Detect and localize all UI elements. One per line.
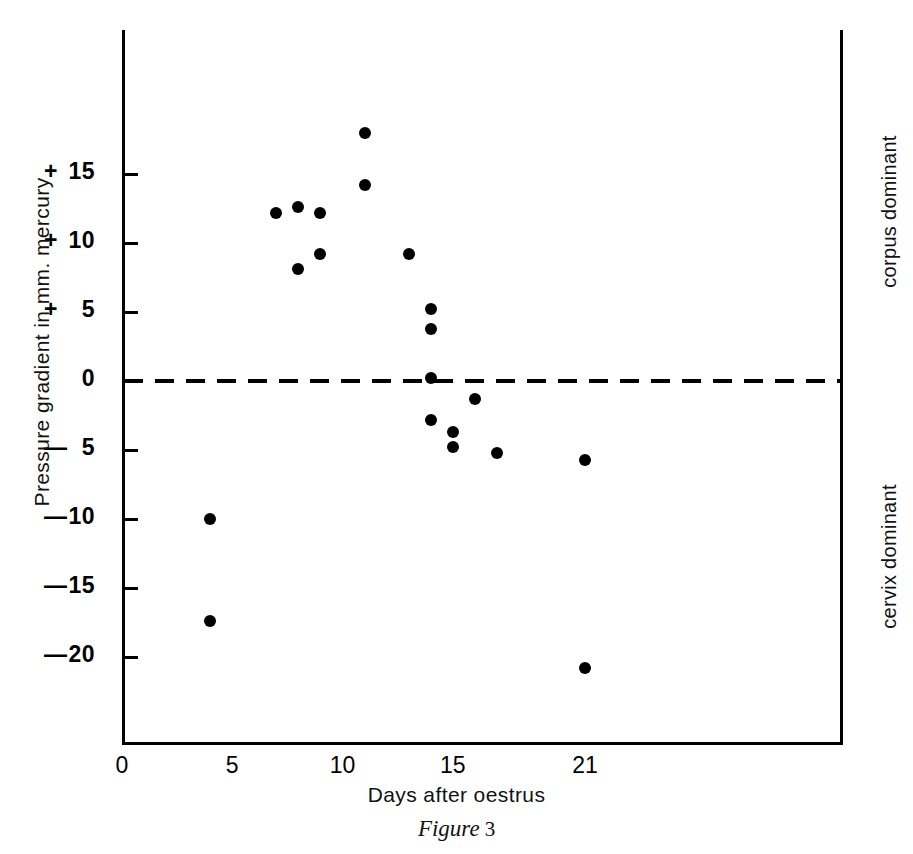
data-point [425,414,437,426]
data-point [403,248,415,260]
annotation-cervix-dominant: cervix dominant [878,457,901,657]
y-tick-mark [125,656,138,659]
data-point [425,323,437,335]
data-point [491,447,503,459]
data-point [469,393,481,405]
y-tick-mark [125,518,138,521]
x-tick-label: 15 [440,752,466,779]
data-point [359,179,371,191]
y-tick-mark [125,173,138,176]
data-point [447,426,459,438]
y-tick-mark [125,380,138,383]
figure-caption-label: Figure [418,816,480,841]
x-tick-label: 10 [330,752,356,779]
data-point [447,441,459,453]
data-point [270,207,282,219]
y-tick-mark [125,449,138,452]
x-axis-title: Days after oestrus [0,783,913,807]
annotation-corpus-dominant: corpus dominant [878,112,901,312]
data-point [425,372,437,384]
figure-caption-number: 3 [480,817,496,841]
x-axis-line [122,742,843,745]
x-tick-label: 21 [572,752,598,779]
data-point [292,263,304,275]
y-tick-label: —20 [44,641,95,668]
y-tick-mark [125,587,138,590]
figure-caption: Figure3 [0,816,913,842]
y-tick-label: —15 [44,572,95,599]
data-point [204,615,216,627]
data-point [314,207,326,219]
y-tick-mark [125,311,138,314]
y-axis-title: Pressure gradient in mm. mercury [30,132,54,552]
x-tick-label: 0 [116,752,129,779]
data-point [292,201,304,213]
data-point [425,303,437,315]
x-tick-label: 5 [226,752,239,779]
data-point [204,513,216,525]
data-point [579,454,591,466]
data-point [359,127,371,139]
data-point [579,662,591,674]
right-axis-line [840,30,843,745]
zero-reference-line [124,379,841,383]
y-tick-mark [125,242,138,245]
y-axis-line [122,30,125,745]
figure-container: +15+10+50—5—10—15—20 05101521 Pressure g… [0,0,913,854]
data-point [314,248,326,260]
